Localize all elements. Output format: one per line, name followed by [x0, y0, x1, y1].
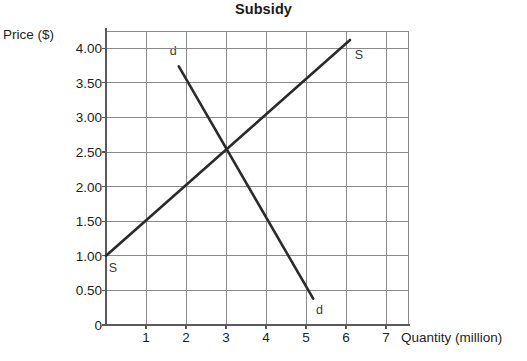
curve-supply: [106, 40, 350, 256]
plot-canvas: [0, 0, 527, 361]
chart-root: Subsidy Price ($) Quantity (million) 00.…: [0, 0, 527, 361]
curve-demand: [179, 66, 313, 298]
